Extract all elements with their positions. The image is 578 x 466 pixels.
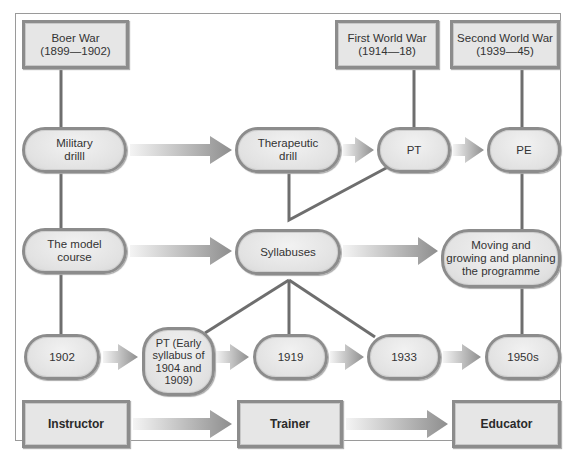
arrow-1919-to-1933 [330,344,364,370]
node-pt-early-syllabus: PT (Early syllabus of 1904 and 1909) [142,327,215,396]
node-label: 1902 [49,351,75,364]
arrow-therapeutic-to-pt [343,137,374,163]
arrow-instructor-to-trainer [133,410,232,438]
node-label: Syllabuses [260,246,316,259]
node-label: Therapeutic drill [258,137,319,163]
node-instructor: Instructor [22,400,130,448]
node-label: Educator [480,418,532,431]
arrow-pt-to-pe [453,137,484,163]
node-label: Boer War (1899—1902) [40,32,110,58]
arrow-trainer-to-educator [346,410,448,438]
node-pe: PE [487,127,561,173]
node-therapeutic-drill: Therapeutic drill [235,127,341,173]
node-label: 1933 [391,351,417,364]
line-therapeutic-pt-syllabuses [289,167,388,220]
node-first-world-war: First World War (1914—18) [335,20,439,69]
node-1902: 1902 [24,334,100,380]
node-1919: 1919 [253,334,328,380]
node-syllabuses: Syllabuses [235,229,341,275]
arrow-pt-early-to-1919 [216,344,249,370]
node-label: 1950s [507,351,538,364]
arrow-model-to-syllabuses [130,237,232,265]
node-label: The model course [47,238,101,264]
node-label: Trainer [270,418,310,431]
node-1933: 1933 [367,334,441,380]
line-syllabuses-to-1933 [289,280,375,337]
node-label: PT [407,144,422,157]
node-second-world-war: Second World War (1939—45) [450,20,560,69]
node-label: 1919 [278,351,304,364]
node-educator: Educator [452,400,561,448]
node-boer-war: Boer War (1899—1902) [22,20,129,69]
node-label: Second World War (1939—45) [457,32,553,58]
node-military-drill: Military drilll [22,127,127,173]
node-label: PE [516,144,531,157]
node-label: Instructor [48,418,104,431]
arrow-military-to-therapeutic [130,136,232,164]
node-label: First World War (1914—18) [347,32,426,58]
node-trainer: Trainer [237,400,343,448]
arrow-1933-to-1950s [443,344,481,370]
node-label: Military drilll [56,137,92,163]
node-1950s: 1950s [485,334,561,380]
arrow-1902-to-pt-early [103,344,138,370]
node-moving-growing: Moving and growing and planning the prog… [441,229,561,288]
node-label: PT (Early syllabus of 1904 and 1909) [153,337,205,387]
node-label: Moving and growing and planning the prog… [446,239,555,278]
node-pt: PT [377,127,451,173]
node-model-course: The model course [22,228,127,274]
line-syllabuses-to-pt-early [205,280,289,333]
arrow-syllabuses-to-moving [343,237,438,265]
